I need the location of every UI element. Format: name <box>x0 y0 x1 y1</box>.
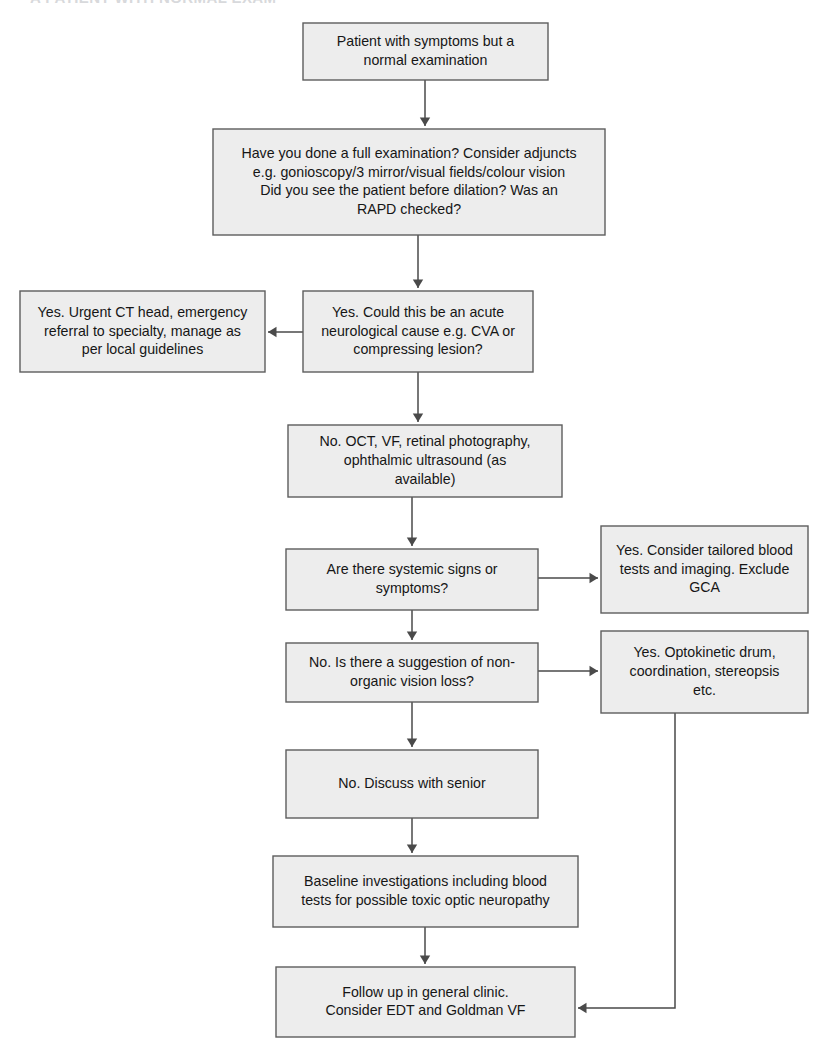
nodes-layer: Patient with symptoms but anormal examin… <box>20 23 808 1037</box>
flowchart-canvas: A PATIENT WITH NORMAL EXAM Patient with … <box>0 0 827 1050</box>
flow-edge <box>268 327 303 337</box>
flow-edge <box>538 666 598 676</box>
flow-edge <box>578 713 675 1013</box>
flow-node[interactable]: Are there systemic signs orsymptoms? <box>286 549 538 610</box>
flow-node[interactable]: Baseline investigations including bloodt… <box>273 856 578 927</box>
flow-edge <box>413 235 423 288</box>
flow-edge <box>420 927 430 964</box>
flow-edge <box>420 80 430 126</box>
flow-edge <box>538 573 598 583</box>
flow-node[interactable]: Yes. Urgent CT head, emergencyreferral t… <box>20 291 265 372</box>
flow-edge <box>407 818 417 853</box>
flow-edge <box>413 372 423 422</box>
flow-edge <box>407 610 417 640</box>
flow-node[interactable]: No. Is there a suggestion of non-organic… <box>286 643 538 702</box>
flow-edge <box>407 497 417 546</box>
flow-node[interactable]: Patient with symptoms but anormal examin… <box>303 23 548 80</box>
flow-node[interactable]: No. OCT, VF, retinal photography,ophthal… <box>288 425 562 497</box>
flow-node[interactable]: Follow up in general clinic.Consider EDT… <box>276 967 575 1037</box>
flow-node[interactable]: Yes. Could this be an acuteneurological … <box>303 291 533 372</box>
flow-node[interactable]: Have you done a full examination? Consid… <box>213 129 605 235</box>
flowchart-svg: Patient with symptoms but anormal examin… <box>0 0 827 1050</box>
flow-node[interactable]: Yes. Optokinetic drum,coordination, ster… <box>601 631 808 713</box>
flow-node[interactable]: Yes. Consider tailored bloodtests and im… <box>601 526 808 613</box>
flow-node[interactable]: No. Discuss with senior <box>286 750 538 818</box>
flow-node-label: No. Discuss with senior <box>338 775 486 791</box>
flow-edge <box>407 702 417 747</box>
